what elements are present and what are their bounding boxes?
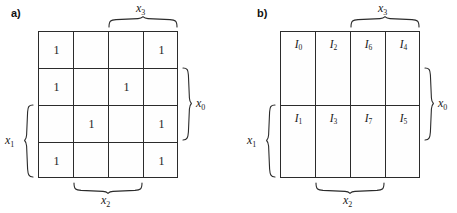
kmap-cell-r3c3[interactable] <box>109 106 144 143</box>
label-x1-sub-panel-b: 1 <box>252 140 256 149</box>
kmap-cell-r1c2[interactable] <box>74 32 109 69</box>
index-cell-r1c1[interactable]: I0 <box>281 32 316 106</box>
kmap-cell-r4c2[interactable] <box>74 142 109 179</box>
index-cell-r1c4[interactable]: I4 <box>386 32 421 106</box>
kmap-cell-r2c2[interactable] <box>74 69 109 106</box>
figure-root: a) x3 1 1 1 1 1 1 1 1 x0 <box>0 0 457 213</box>
kmap-cell-r1c1[interactable]: 1 <box>39 32 74 69</box>
kmap-cell-r1c3[interactable] <box>109 32 144 69</box>
label-x0-sub-panel-a: 0 <box>201 103 205 112</box>
brace-right-x0-panel-a <box>182 67 194 141</box>
label-x3-sub-panel-a: 3 <box>141 8 145 17</box>
index-cell-r2c3[interactable]: I7 <box>351 106 386 180</box>
panel-b-letter: b) <box>257 7 267 19</box>
kmap-cell-r3c2[interactable]: 1 <box>74 106 109 143</box>
karnaugh-map-grid-a: 1 1 1 1 1 1 1 1 <box>38 31 178 178</box>
label-x0-panel-a: x0 <box>196 97 205 109</box>
brace-left-x1-panel-a <box>22 104 34 178</box>
brace-bottom-x2-panel-b <box>315 182 385 194</box>
brace-top-x3-panel-a <box>108 16 178 28</box>
label-x3-panel-a: x3 <box>136 2 145 14</box>
kmap-cell-r3c4[interactable]: 1 <box>144 106 179 143</box>
index-map-grid-b: I0 I2 I6 I4 I1 I3 I7 I5 <box>280 31 420 178</box>
index-label-r1c4: I4 <box>400 39 408 51</box>
brace-top-x3-panel-b <box>350 16 420 28</box>
kmap-cell-r2c3[interactable]: 1 <box>109 69 144 106</box>
index-cell-r2c2[interactable]: I3 <box>316 106 351 180</box>
index-cell-r2c1[interactable]: I1 <box>281 106 316 180</box>
label-x2-panel-b: x2 <box>343 194 352 206</box>
index-cell-r1c2[interactable]: I2 <box>316 32 351 106</box>
label-x1-sub-panel-a: 1 <box>10 140 14 149</box>
label-x1-panel-a: x1 <box>5 134 14 146</box>
index-cell-r2c4[interactable]: I5 <box>386 106 421 180</box>
kmap-cell-r2c1[interactable]: 1 <box>39 69 74 106</box>
kmap-cell-r4c1[interactable]: 1 <box>39 142 74 179</box>
label-x2-sub-panel-b: 2 <box>348 200 352 209</box>
label-x0-panel-b: x0 <box>438 97 447 109</box>
label-x2-sub-panel-a: 2 <box>106 200 110 209</box>
brace-right-x0-panel-b <box>424 67 436 141</box>
index-label-r2c3: I7 <box>365 113 373 125</box>
brace-left-x1-panel-b <box>264 104 276 178</box>
label-x3-sub-panel-b: 3 <box>383 8 387 17</box>
label-x1-panel-b: x1 <box>247 134 256 146</box>
brace-bottom-x2-panel-a <box>73 182 143 194</box>
kmap-cell-r3c1[interactable] <box>39 106 74 143</box>
index-label-r1c2: I2 <box>330 39 338 51</box>
label-x0-sub-panel-b: 0 <box>443 103 447 112</box>
panel-a-letter: a) <box>11 7 21 19</box>
index-label-r1c3: I6 <box>365 39 373 51</box>
kmap-cell-r4c4[interactable]: 1 <box>144 142 179 179</box>
index-label-r2c1: I1 <box>295 113 303 125</box>
index-label-r1c1: I0 <box>295 39 303 51</box>
index-cell-r1c3[interactable]: I6 <box>351 32 386 106</box>
label-x2-panel-a: x2 <box>101 194 110 206</box>
index-label-r2c4: I5 <box>400 113 408 125</box>
label-x3-panel-b: x3 <box>378 2 387 14</box>
kmap-cell-r2c4[interactable] <box>144 69 179 106</box>
kmap-cell-r1c4[interactable]: 1 <box>144 32 179 69</box>
kmap-cell-r4c3[interactable] <box>109 142 144 179</box>
index-label-r2c2: I3 <box>330 113 338 125</box>
